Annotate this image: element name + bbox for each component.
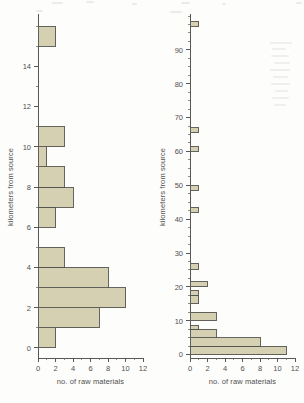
x-tick-label: 2 (205, 364, 209, 373)
left-histogram-panel: 02468101214024681012no. of raw materials… (0, 0, 152, 403)
x-tick-label: 4 (71, 364, 75, 373)
histogram-bar (38, 187, 73, 207)
x-tick-label: 6 (240, 364, 244, 373)
x-axis-title: no. of raw materials (209, 377, 277, 386)
x-tick-label: 12 (139, 364, 147, 373)
histogram-bar (38, 308, 99, 328)
histogram-bar (190, 326, 199, 329)
x-axis-title: no. of raw materials (57, 377, 125, 386)
histogram-bar (38, 127, 64, 147)
right-histogram-panel: 0102030405060708090024681012no. of raw m… (152, 0, 304, 403)
histogram-bar (38, 267, 108, 287)
y-tick-label: 6 (27, 223, 31, 232)
y-axis-title: kilometers from source (158, 148, 167, 226)
histogram-bar (190, 185, 199, 190)
x-tick-label: 2 (53, 364, 57, 373)
x-tick-label: 10 (273, 364, 281, 373)
x-tick-label: 12 (291, 364, 299, 373)
x-tick-label: 6 (88, 364, 92, 373)
y-tick-label: 2 (27, 304, 31, 313)
histogram-bar (190, 263, 199, 270)
histogram-bar (190, 128, 199, 133)
y-tick-label: 14 (23, 62, 31, 71)
y-tick-label: 20 (175, 283, 183, 292)
x-tick-label: 8 (258, 364, 262, 373)
x-tick-label: 8 (106, 364, 110, 373)
x-tick-label: 0 (188, 364, 192, 373)
y-tick-label: 40 (175, 215, 183, 224)
y-axis-title: kilometers from source (6, 148, 15, 226)
right-histogram-plot: 0102030405060708090024681012no. of raw m… (152, 0, 304, 403)
y-tick-label: 70 (175, 113, 183, 122)
y-tick-label: 30 (175, 249, 183, 258)
histogram-bar (38, 328, 56, 348)
y-tick-label: 50 (175, 181, 183, 190)
histogram-bar (38, 247, 64, 267)
y-tick-label: 10 (175, 317, 183, 326)
histogram-bar (38, 207, 56, 227)
figure-page: 02468101214024681012no. of raw materials… (0, 0, 304, 403)
histogram-bar (190, 346, 286, 354)
histogram-bar (190, 290, 199, 295)
y-tick-label: 90 (175, 46, 183, 55)
y-tick-label: 8 (27, 183, 31, 192)
histogram-bar (190, 295, 199, 303)
histogram-bar (38, 26, 56, 46)
left-histogram-plot: 02468101214024681012no. of raw materials… (0, 0, 152, 403)
histogram-bar (190, 146, 199, 151)
histogram-bar (190, 329, 216, 337)
x-tick-label: 0 (36, 364, 40, 373)
y-tick-label: 0 (27, 344, 31, 353)
histogram-bar (38, 167, 64, 187)
histogram-bar (190, 282, 208, 287)
histogram-bar (190, 338, 260, 346)
histogram-bar (190, 207, 199, 212)
x-tick-label: 10 (121, 364, 129, 373)
histogram-bar (38, 147, 47, 167)
histogram-bar (190, 21, 199, 26)
y-tick-label: 4 (27, 263, 31, 272)
y-tick-label: 60 (175, 147, 183, 156)
y-tick-label: 12 (23, 102, 31, 111)
histogram-bar (190, 312, 216, 320)
x-tick-label: 4 (223, 364, 227, 373)
y-tick-label: 10 (23, 143, 31, 152)
histogram-bar (38, 288, 126, 308)
y-tick-label: 80 (175, 80, 183, 89)
y-tick-label: 0 (179, 350, 183, 359)
